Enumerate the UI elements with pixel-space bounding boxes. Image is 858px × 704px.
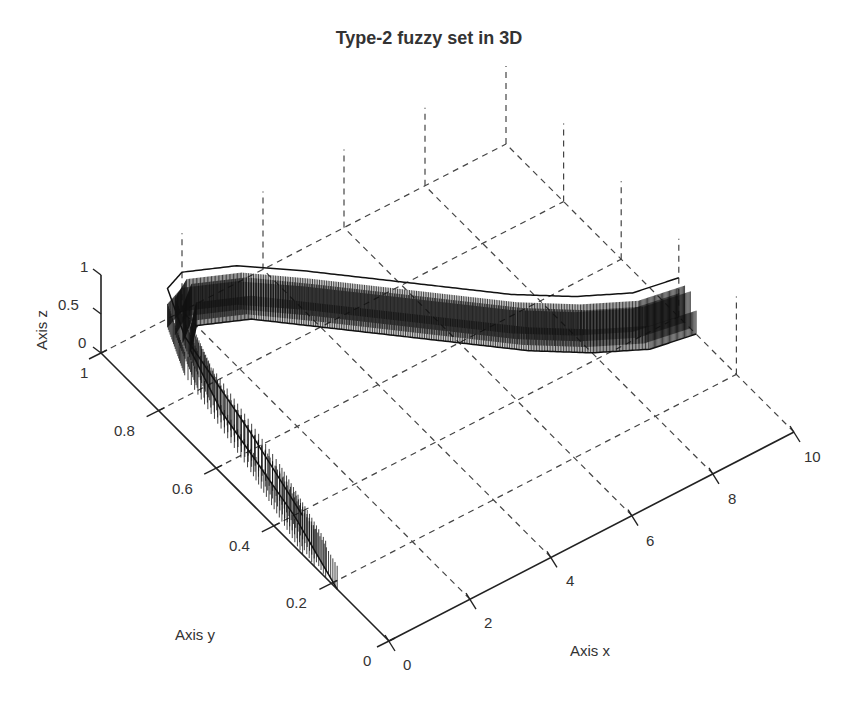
- y-axis-title: Axis y: [175, 626, 215, 643]
- z-tick-label: 0: [78, 334, 86, 351]
- x-tick-label: 0: [403, 656, 411, 673]
- y-tick-label: 0: [363, 652, 371, 669]
- y-tick-label: 1: [80, 364, 88, 381]
- y-axis: [101, 353, 389, 641]
- z-axis-title: Axis z: [33, 310, 50, 350]
- x-tick-label: 4: [566, 572, 574, 589]
- grid-line: [331, 374, 736, 583]
- y-tick-label: 0.2: [286, 594, 307, 611]
- y-tick: [147, 408, 165, 417]
- z-tick: [93, 269, 101, 275]
- x-tick-label: 6: [646, 532, 654, 549]
- x-tick-label: 8: [728, 490, 736, 507]
- y-tick-label: 0.4: [229, 537, 250, 554]
- x-axis-title: Axis x: [570, 642, 610, 659]
- y-tick: [204, 465, 222, 474]
- z-tick: [93, 347, 101, 353]
- z-tick-label: 0.5: [58, 296, 79, 313]
- chart-plot-area: [0, 0, 858, 704]
- x-tick-label: 2: [484, 614, 492, 631]
- y-tick-label: 0.8: [114, 422, 135, 439]
- grid-line: [344, 228, 632, 516]
- y-tick: [262, 523, 280, 532]
- y-tick-label: 0.6: [172, 480, 193, 497]
- chart-title: Type-2 fuzzy set in 3D: [0, 28, 858, 49]
- x-axis: [389, 432, 794, 641]
- lower-mf-bottom-edge: [191, 319, 697, 589]
- z-tick: [93, 308, 101, 314]
- x-tick-label: 10: [804, 448, 821, 465]
- z-tick-label: 1: [80, 258, 88, 275]
